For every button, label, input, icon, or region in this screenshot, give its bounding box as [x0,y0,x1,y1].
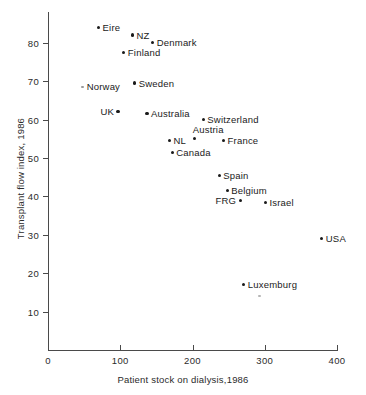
point-marker [168,139,171,142]
y-axis-line [48,12,49,351]
x-tick-label: 200 [184,355,201,366]
point-label: Switzerland [207,115,258,125]
x-tick [265,345,266,351]
point-label: Spain [223,171,248,181]
point-marker [133,81,136,84]
point-label: UK [100,107,114,117]
x-tick [120,345,121,351]
y-tick [43,235,49,236]
point-marker [226,189,229,192]
point-label: USA [326,234,346,244]
x-tick [337,345,338,351]
point-label: Canada [176,148,210,158]
x-axis-title: Patient stock on dialysis,1986 [0,374,366,385]
point-marker [81,86,84,89]
x-tick-label: 400 [329,355,346,366]
point-label: Norway [87,82,120,92]
point-marker [131,33,134,36]
y-tick-label: 60 [28,114,39,125]
point-label: Luxemburg [248,280,297,290]
point-label: Israel [269,198,293,208]
point-label: Eire [103,23,121,33]
point-marker [193,137,196,140]
point-label: Sweden [139,79,175,89]
point-label: NL [173,136,186,146]
y-tick-label: 30 [28,229,39,240]
y-tick-label: 70 [28,76,39,87]
point-marker [264,201,267,204]
point-marker [145,112,148,115]
y-tick [43,158,49,159]
point-label: NZ [137,31,150,41]
point-label: Australia [151,109,190,119]
x-tick-label: 0 [45,355,51,366]
point-label: FRG [216,196,237,206]
point-marker [116,110,119,113]
point-label: Denmark [157,38,197,48]
point-marker [97,26,100,29]
y-tick-label: 10 [28,306,39,317]
point-marker [171,151,174,154]
point-marker [239,199,242,202]
point-label: France [228,136,259,146]
stray-mark [258,295,260,297]
point-marker [320,237,323,240]
point-marker [122,51,125,54]
y-tick [43,196,49,197]
y-tick-label: 40 [28,191,39,202]
y-tick [43,81,49,82]
y-tick [43,120,49,121]
y-tick [43,312,49,313]
point-marker [242,283,245,286]
y-axis-title: Transplant flow index, 1986 [15,74,26,284]
point-marker [218,174,221,177]
point-marker [202,118,205,121]
point-label: Belgium [231,186,267,196]
y-tick-label: 20 [28,268,39,279]
y-tick [43,273,49,274]
x-tick-label: 100 [112,355,129,366]
y-tick-label: 50 [28,152,39,163]
point-marker [222,139,225,142]
x-tick [193,345,194,351]
y-tick-label: 80 [28,37,39,48]
y-tick [43,43,49,44]
x-tick-label: 300 [256,355,273,366]
point-label: Finland [128,48,161,58]
point-label: Austria [193,125,224,135]
point-marker [151,41,154,44]
scatter-chart: 1020304050607080 0100200300400 EireNZDen… [0,0,366,395]
